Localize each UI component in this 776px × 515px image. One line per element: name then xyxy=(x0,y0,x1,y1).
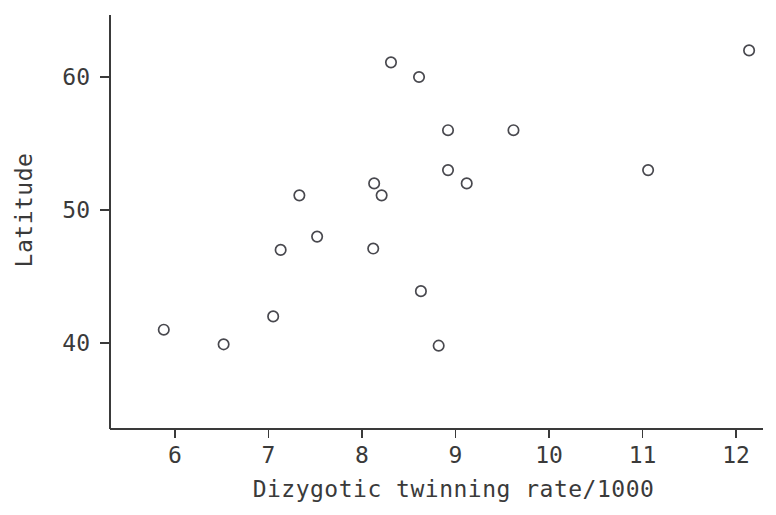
data-point-marker xyxy=(368,243,378,253)
x-tick-label: 8 xyxy=(355,442,369,468)
data-point-marker xyxy=(433,340,443,350)
y-tick-label: 40 xyxy=(62,330,90,356)
x-tick-label: 9 xyxy=(449,442,463,468)
data-point-marker xyxy=(462,178,472,188)
x-tick-label: 7 xyxy=(262,442,276,468)
data-point-marker xyxy=(275,245,285,255)
data-point-marker xyxy=(369,178,379,188)
x-tick-label: 6 xyxy=(168,442,182,468)
x-tick-label: 12 xyxy=(722,442,750,468)
data-point-marker xyxy=(376,190,386,200)
data-point-marker xyxy=(386,57,396,67)
x-axis-label: Dizygotic twinning rate/1000 xyxy=(253,476,655,502)
data-point-marker xyxy=(744,45,754,55)
data-point-marker xyxy=(218,339,228,349)
data-point-marker xyxy=(414,72,424,82)
data-point-marker xyxy=(268,311,278,321)
x-tick-label: 11 xyxy=(629,442,657,468)
tick-marks xyxy=(100,77,736,438)
tick-labels: 6789101112405060 xyxy=(62,64,750,468)
data-point-marker xyxy=(508,125,518,135)
data-points xyxy=(159,45,755,351)
data-point-marker xyxy=(443,165,453,175)
data-point-marker xyxy=(643,165,653,175)
y-axis-label: Latitude xyxy=(11,153,37,268)
x-tick-label: 10 xyxy=(535,442,563,468)
data-point-marker xyxy=(294,190,304,200)
scatter-plot-figure: 6789101112405060 Dizygotic twinning rate… xyxy=(0,0,776,515)
data-point-marker xyxy=(443,125,453,135)
axes xyxy=(110,15,763,429)
data-point-marker xyxy=(416,286,426,296)
data-point-marker xyxy=(159,325,169,335)
y-tick-label: 50 xyxy=(62,197,90,223)
plot-canvas: 6789101112405060 Dizygotic twinning rate… xyxy=(0,0,776,515)
data-point-marker xyxy=(312,231,322,241)
y-tick-label: 60 xyxy=(62,64,90,90)
